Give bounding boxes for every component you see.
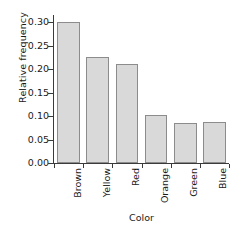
bar-brown	[57, 22, 80, 163]
x-axis-title: Color	[54, 212, 229, 223]
x-tick-label: Brown	[73, 168, 83, 198]
bar-orange	[145, 115, 168, 163]
y-tick-mark	[48, 163, 53, 164]
bar-green	[174, 123, 197, 163]
y-tick-label: 0.25	[16, 41, 49, 51]
y-tick-label: 0.00	[16, 158, 49, 168]
y-tick-label: 0.05	[16, 135, 49, 145]
x-tick-mark	[200, 164, 201, 168]
bar-red	[116, 64, 139, 163]
y-tick-label: 0.20	[16, 64, 49, 74]
x-tick-label: Green	[189, 168, 199, 197]
y-tick-mark	[48, 116, 53, 117]
x-tick-label: Blue	[218, 168, 228, 189]
y-tick-mark	[48, 22, 53, 23]
x-tick-mark	[229, 164, 230, 168]
x-tick-mark	[83, 164, 84, 168]
y-tick-mark	[48, 140, 53, 141]
bar-yellow	[86, 57, 109, 163]
x-tick-label: Red	[131, 168, 141, 186]
x-tick-mark	[112, 164, 113, 168]
y-tick-label: 0.10	[16, 111, 49, 121]
y-tick-mark	[48, 93, 53, 94]
x-tick-mark	[54, 164, 55, 168]
x-tick-label: Yellow	[102, 168, 112, 197]
plot-area	[54, 15, 229, 163]
bar-blue	[203, 122, 226, 163]
y-tick-mark	[48, 46, 53, 47]
y-axis-tick-labels: 0.000.050.100.150.200.250.30	[16, 15, 49, 163]
x-tick-label: Orange	[160, 168, 170, 203]
y-tick-label: 0.30	[16, 17, 49, 27]
bar-chart: Relative frequency 0.000.050.100.150.200…	[0, 0, 240, 233]
x-axis-tick-labels: BrownYellowRedOrangeGreenBlue	[54, 168, 229, 208]
x-tick-mark	[171, 164, 172, 168]
x-tick-mark	[142, 164, 143, 168]
y-tick-label: 0.15	[16, 88, 49, 98]
y-tick-mark	[48, 69, 53, 70]
